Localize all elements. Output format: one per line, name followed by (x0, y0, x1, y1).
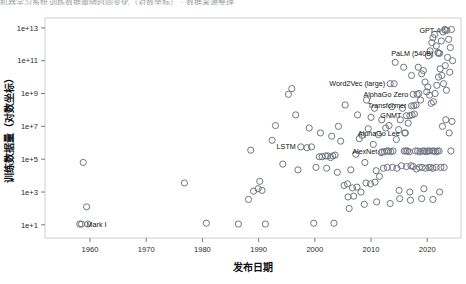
data-point (313, 164, 319, 170)
data-point (329, 133, 335, 139)
annotated-data-point (387, 81, 393, 87)
x-tick-label: 1970 (138, 245, 155, 254)
data-point (335, 123, 341, 129)
point-label: PaLM (540B) (391, 49, 433, 58)
data-point (449, 118, 455, 124)
data-point (285, 91, 291, 97)
data-point (433, 43, 439, 49)
data-point (387, 200, 393, 206)
data-point (259, 187, 265, 193)
y-tick-label: 1e+7 (21, 122, 38, 131)
axis-titles: 发布日期训练数据量（对数坐标） (3, 73, 273, 273)
data-point (432, 90, 438, 96)
data-point (401, 64, 407, 70)
point-label: AlphaGo Zero (363, 90, 408, 99)
data-point (419, 196, 425, 202)
data-point (203, 220, 209, 226)
x-tick-label: 2020 (419, 245, 436, 254)
data-point (308, 144, 314, 150)
data-point (376, 173, 382, 179)
data-point (280, 161, 286, 167)
annotated-data-point (298, 144, 304, 150)
data-point (449, 58, 455, 64)
data-point (272, 122, 278, 128)
point-label: GNMT (380, 111, 402, 120)
data-point (354, 112, 360, 118)
data-point (380, 165, 386, 171)
data-point (331, 220, 337, 226)
data-point (396, 187, 402, 193)
data-point (262, 221, 268, 227)
data-point (346, 205, 352, 211)
point-label: AlexNet (352, 147, 377, 156)
data-point (405, 120, 411, 126)
data-point (84, 204, 90, 210)
data-point (368, 114, 374, 120)
y-tick-label: 1e+9 (21, 89, 38, 98)
data-point (338, 138, 344, 144)
data-point (373, 168, 379, 174)
point-annotations: Mark ILSTMAlexNetAlphaGo LeeGNMTTransfor… (78, 26, 448, 229)
data-point (245, 196, 251, 202)
data-point (443, 87, 449, 93)
point-label: Transformer (368, 101, 407, 110)
data-point (448, 148, 454, 154)
data-point (397, 196, 403, 202)
axis-ticks: 1e+11e+31e+51e+71e+91e+111e+131960197019… (17, 24, 436, 254)
data-point (438, 38, 444, 44)
data-point (257, 178, 263, 184)
data-point (439, 123, 445, 129)
data-point (374, 199, 380, 205)
data-point (408, 72, 414, 78)
data-point (289, 86, 295, 92)
x-tick-label: 1990 (250, 245, 267, 254)
data-point (417, 97, 423, 103)
data-point (349, 185, 355, 191)
y-tick-label: 1e+1 (21, 221, 38, 230)
data-point (440, 81, 446, 87)
data-point (421, 186, 427, 192)
data-point (248, 147, 254, 153)
data-point (181, 180, 187, 186)
data-point (293, 112, 299, 118)
data-point (434, 82, 440, 88)
data-point (235, 221, 241, 227)
data-point (295, 167, 301, 173)
point-label: Mark I (87, 220, 107, 229)
point-label: LSTM (277, 142, 296, 151)
data-point (311, 220, 317, 226)
data-point (317, 130, 323, 136)
y-tick-label: 1e+13 (17, 24, 38, 33)
data-point (362, 159, 368, 165)
y-tick-label: 1e+3 (21, 188, 38, 197)
x-tick-label: 1960 (82, 245, 99, 254)
data-point (430, 196, 436, 202)
x-tick-label: 2000 (306, 245, 323, 254)
data-point (437, 189, 443, 195)
data-point (446, 36, 452, 42)
data-point (306, 125, 312, 131)
data-point (80, 159, 86, 165)
x-tick-label: 2010 (363, 245, 380, 254)
data-point (447, 44, 453, 50)
data-point (446, 130, 452, 136)
y-tick-label: 1e+11 (17, 56, 38, 65)
plot-canvas: 1e+11e+31e+51e+71e+91e+111e+131960197019… (0, 0, 466, 284)
data-point (363, 180, 369, 186)
data-point (442, 63, 448, 69)
data-point (447, 69, 453, 75)
data-point (448, 26, 454, 32)
y-axis-title: 训练数据量（对数坐标） (3, 73, 15, 183)
data-point (324, 165, 330, 171)
data-point (334, 169, 340, 175)
data-point (361, 201, 367, 207)
point-label: GPT-4 (419, 26, 440, 35)
clipped-header-text: 机器学习系统训练数据量随时间变化（对数坐标） · 数据来源整理 (0, 0, 466, 5)
data-point (407, 189, 413, 195)
x-axis-title: 发布日期 (232, 261, 273, 273)
scatter-chart: 机器学习系统训练数据量随时间变化（对数坐标） · 数据来源整理 1e+11e+3… (0, 0, 466, 284)
data-point (415, 64, 421, 70)
y-tick-label: 1e+5 (21, 155, 38, 164)
point-label: Word2Vec (large) (329, 79, 385, 88)
x-tick-label: 1980 (194, 245, 211, 254)
